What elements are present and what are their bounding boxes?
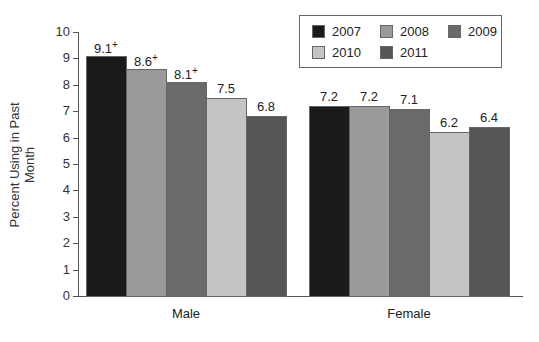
bar-male-2011 bbox=[246, 116, 287, 297]
legend-swatch bbox=[312, 25, 325, 38]
legend-label: 2007 bbox=[332, 24, 361, 39]
bar-female-2011 bbox=[469, 127, 510, 297]
y-axis bbox=[78, 32, 79, 297]
legend-item-2009: 2009 bbox=[448, 24, 497, 39]
legend-label: 2009 bbox=[468, 24, 497, 39]
bar-male-2007 bbox=[86, 56, 127, 297]
bar-male-2008 bbox=[126, 69, 167, 297]
category-label-female: Female bbox=[359, 306, 459, 321]
y-tick bbox=[73, 217, 78, 218]
y-tick-label: 7 bbox=[50, 103, 70, 118]
value-label: 6.4 bbox=[464, 110, 514, 125]
legend-item-2011: 2011 bbox=[380, 45, 428, 60]
legend-swatch bbox=[380, 25, 393, 38]
y-tick bbox=[73, 85, 78, 86]
y-tick-label: 5 bbox=[50, 156, 70, 171]
y-tick-label: 3 bbox=[50, 209, 70, 224]
bar-female-2010 bbox=[429, 132, 470, 297]
value-label: 7.1 bbox=[384, 92, 434, 107]
bar-male-2009 bbox=[166, 82, 207, 297]
legend-item-2010: 2010 bbox=[312, 45, 361, 60]
value-label: 6.8 bbox=[241, 99, 291, 114]
y-tick-label: 9 bbox=[50, 50, 70, 65]
y-tick-label: 0 bbox=[50, 288, 70, 303]
legend-swatch bbox=[312, 46, 325, 59]
legend: 20072008200920102011 bbox=[299, 15, 502, 68]
legend-swatch bbox=[448, 25, 461, 38]
y-tick bbox=[73, 32, 78, 33]
legend-label: 2010 bbox=[332, 45, 361, 60]
y-tick bbox=[73, 296, 78, 297]
y-tick bbox=[73, 164, 78, 165]
value-label: 7.5 bbox=[201, 81, 251, 96]
y-tick-label: 2 bbox=[50, 235, 70, 250]
bar-female-2007 bbox=[309, 106, 350, 297]
y-axis-label: Percent Using in Past Month bbox=[7, 85, 37, 245]
y-tick-label: 4 bbox=[50, 182, 70, 197]
y-tick bbox=[73, 58, 78, 59]
y-tick-label: 8 bbox=[50, 77, 70, 92]
y-tick bbox=[73, 270, 78, 271]
bar-female-2008 bbox=[349, 106, 390, 297]
legend-item-2007: 2007 bbox=[312, 24, 361, 39]
y-tick-label: 6 bbox=[50, 130, 70, 145]
legend-item-2008: 2008 bbox=[380, 24, 429, 39]
y-tick-label: 1 bbox=[50, 262, 70, 277]
bar-male-2010 bbox=[206, 98, 247, 297]
bar-female-2009 bbox=[389, 109, 430, 297]
y-tick bbox=[73, 190, 78, 191]
legend-label: 2008 bbox=[400, 24, 429, 39]
value-label: 8.1+ bbox=[161, 65, 211, 82]
y-tick bbox=[73, 138, 78, 139]
legend-label: 2011 bbox=[400, 45, 428, 60]
y-tick-label: 10 bbox=[50, 24, 70, 39]
category-label-male: Male bbox=[136, 306, 236, 321]
y-tick bbox=[73, 111, 78, 112]
y-tick bbox=[73, 243, 78, 244]
legend-swatch bbox=[380, 46, 393, 59]
